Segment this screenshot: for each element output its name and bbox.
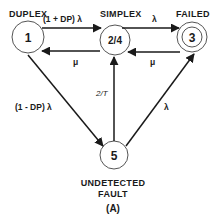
node-number: 1 [25,31,32,45]
state-label-duplex: DUPLEX [9,9,47,19]
state-node-5: 5 [100,141,128,169]
rate-1-to-5: (1 - DP) λ [15,102,52,112]
rate-5-to-3: λ [164,102,169,112]
rate-5-to-2-4: 2/T [95,89,109,98]
state-label-undetected: UNDETECTED [81,178,146,188]
node-number: 5 [111,149,118,163]
rate-3-to-2-4: μ [150,57,155,67]
state-node-3: 3 [177,22,207,52]
state-node-1: 1 [12,21,44,53]
state-node-2-4: 2/4 [100,25,130,55]
state-label-fault: FAULT [98,189,128,199]
transition-1-to-5 [28,55,103,146]
state-label-simplex: SIMPLEX [100,9,142,19]
rate-2-4-to-1: μ [73,57,78,67]
transition-5-to-3 [126,54,194,146]
rate-2-4-to-3: λ [152,14,157,24]
markov-diagram: DUPLEX SIMPLEX FAILED 1 2/4 3 5 UNDETECT… [0,0,211,215]
node-number: 2/4 [108,35,122,46]
figure-caption: (A) [106,203,120,214]
node-number: 3 [189,31,196,45]
state-label-failed: FAILED [176,9,210,19]
rate-1-to-2-4: (1 + DP) λ [43,14,82,24]
